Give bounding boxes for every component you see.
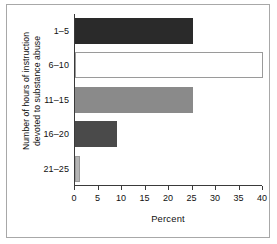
x-axis-tick-label: 35 [227,193,251,203]
bar-21-25 [75,156,80,182]
x-axis-title: Percent [74,213,262,224]
bar-11-15 [75,87,193,113]
x-axis-tick [98,186,99,190]
bar-16-20 [75,121,117,147]
bar-chart-figure: Number of hours of instruction devoted t… [0,0,277,244]
bar-1-5 [75,18,193,44]
x-axis-tick [239,186,240,190]
x-axis-tick [168,186,169,190]
y-axis-tick-label: 6–10 [25,60,69,70]
x-axis-tick [74,186,75,190]
x-axis-tick-label: 30 [203,193,227,203]
x-axis-tick-label: 5 [86,193,110,203]
x-axis-tick-label: 10 [109,193,133,203]
x-axis-tick-label: 25 [180,193,204,203]
x-axis-tick-label: 0 [62,193,86,203]
plot-area: 0510152025303540 [74,14,262,186]
x-axis-tick-label: 15 [133,193,157,203]
x-axis-tick-label: 20 [156,193,180,203]
x-axis-tick-label: 40 [250,193,274,203]
x-axis-tick [145,186,146,190]
x-axis-tick [215,186,216,190]
x-axis-tick [262,186,263,190]
y-axis-tick-label: 11–15 [25,95,69,105]
x-axis-tick [121,186,122,190]
y-axis-tick-labels: 1–5 6–10 11–15 16–20 21–25 [25,14,69,186]
y-axis-tick-label: 16–20 [25,129,69,139]
x-axis-tick [192,186,193,190]
bar-6-10 [75,52,263,78]
y-axis-tick-label: 21–25 [25,164,69,174]
y-axis-tick-label: 1–5 [25,26,69,36]
